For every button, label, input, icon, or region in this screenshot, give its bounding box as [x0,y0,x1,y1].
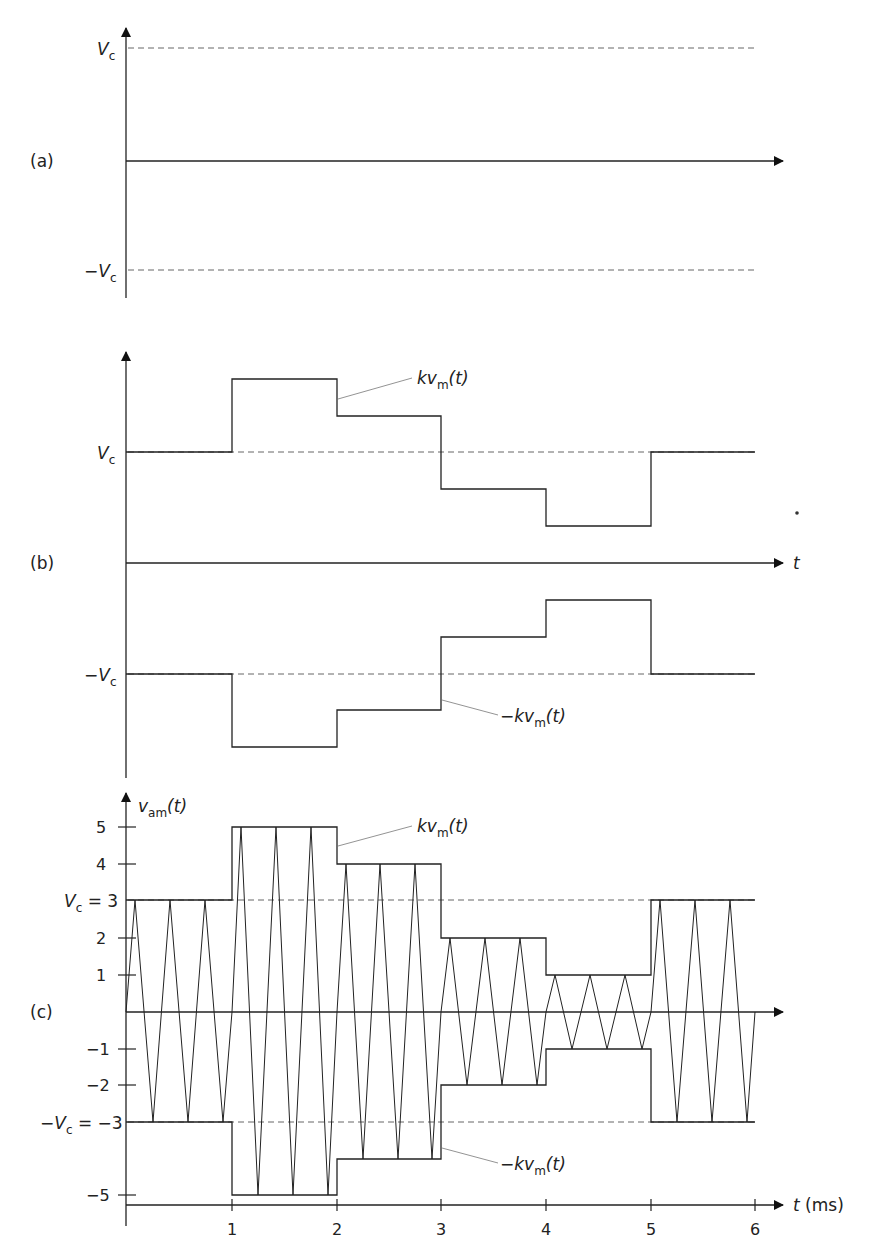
x-axis-label: t (ms) [793,1195,844,1215]
stray-mark [795,511,799,515]
panel-c-label: (c) [30,1002,53,1022]
svg-text:1: 1 [96,966,106,985]
svg-text:1: 1 [227,1220,237,1239]
upper-envelope [126,379,755,526]
lower-envelope-leader [442,1148,498,1163]
panel-b-label: (b) [30,553,54,573]
svg-text:−2: −2 [86,1076,110,1095]
neg-vc-label: −Vc = −3 [40,1113,123,1137]
vc-label: Vc = 3 [64,891,118,915]
upper-envelope [126,827,755,975]
x-tick-labels: 1 2 3 4 5 6 [227,1220,760,1239]
neg-vc-label: −Vc [84,261,116,285]
upper-envelope-label: kvm(t) [417,816,469,840]
upper-envelope-leader [338,826,412,846]
lower-envelope-leader [442,700,498,715]
svg-text:−5: −5 [86,1186,110,1205]
y-axis-label: vam(t) [138,796,187,820]
lower-envelope-label: −kvm(t) [500,706,566,730]
neg-vc-label: −Vc [84,665,116,689]
svg-text:−1: −1 [86,1040,110,1059]
y-ticks [118,827,136,1195]
svg-text:2: 2 [332,1220,342,1239]
panel-b: (b) Vc −Vc t kvm(t) −kvm(t) [30,352,801,778]
svg-text:3: 3 [436,1220,446,1239]
vc-label: Vc [97,443,115,467]
svg-text:5: 5 [96,818,106,837]
svg-text:5: 5 [646,1220,656,1239]
am-waveform-figure: (a) Vc −Vc (b) Vc −Vc t kvm(t) −kvm(t) [0,0,877,1259]
upper-envelope-leader [338,378,412,399]
panel-a: (a) Vc −Vc [30,28,783,298]
panel-a-label: (a) [30,151,54,171]
vc-label: Vc [97,39,115,63]
svg-text:6: 6 [750,1220,760,1239]
svg-text:4: 4 [96,855,106,874]
svg-text:4: 4 [541,1220,551,1239]
t-axis-label: t [793,553,801,573]
lower-envelope [126,1049,755,1195]
panel-c: 5 4 2 1 −1 −2 −5 1 2 3 4 5 6 [30,793,844,1239]
lower-envelope [126,600,755,747]
upper-envelope-label: kvm(t) [417,368,469,392]
svg-text:2: 2 [96,929,106,948]
y-tick-labels: 5 4 2 1 −1 −2 −5 [86,818,110,1205]
lower-envelope-label: −kvm(t) [500,1154,566,1178]
